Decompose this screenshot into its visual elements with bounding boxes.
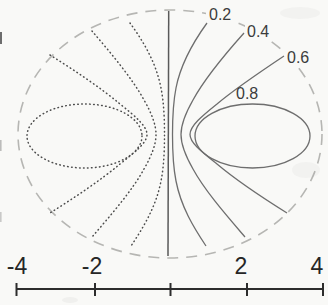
contour-0.8 xyxy=(195,104,310,168)
scan-artifacts xyxy=(0,7,320,303)
contour-0.6 xyxy=(190,56,287,213)
contour-figure: 0.2 0.4 0.6 0.8 -4 -2 2 4 xyxy=(0,0,328,305)
contour-plot-canvas: 0.2 0.4 0.6 0.8 -4 -2 2 4 xyxy=(0,0,328,305)
negative-contour--0.4 xyxy=(92,31,156,237)
boundary-ellipse xyxy=(18,10,322,258)
contour-label-0.4: 0.4 xyxy=(247,23,269,40)
contour-label-0.8: 0.8 xyxy=(236,85,258,102)
negative-contours-group xyxy=(27,23,165,246)
scan-edge-mark xyxy=(0,140,2,151)
x-axis-label-4: 4 xyxy=(311,253,324,279)
x-axis-label--4: -4 xyxy=(7,253,28,279)
x-axis-label-2: 2 xyxy=(235,253,248,279)
x-axis xyxy=(16,283,323,296)
zero-contour-line xyxy=(168,11,169,256)
negative-contour--0.6 xyxy=(50,55,147,213)
x-axis-labels-group: -4 -2 2 4 xyxy=(7,253,324,279)
scan-smudge xyxy=(280,7,320,19)
contour-label-0.6: 0.6 xyxy=(287,49,309,66)
scan-smudge xyxy=(292,162,320,178)
scan-edge-mark xyxy=(0,212,2,222)
negative-contour--0.8 xyxy=(27,104,142,168)
x-axis-label--2: -2 xyxy=(82,253,102,279)
contour-labels-group: 0.2 0.4 0.6 0.8 xyxy=(209,6,309,102)
contour-label-0.2: 0.2 xyxy=(209,6,231,23)
scan-smudge xyxy=(62,297,78,303)
scan-edge-mark xyxy=(0,32,2,44)
negative-contour--0.2 xyxy=(130,23,165,246)
